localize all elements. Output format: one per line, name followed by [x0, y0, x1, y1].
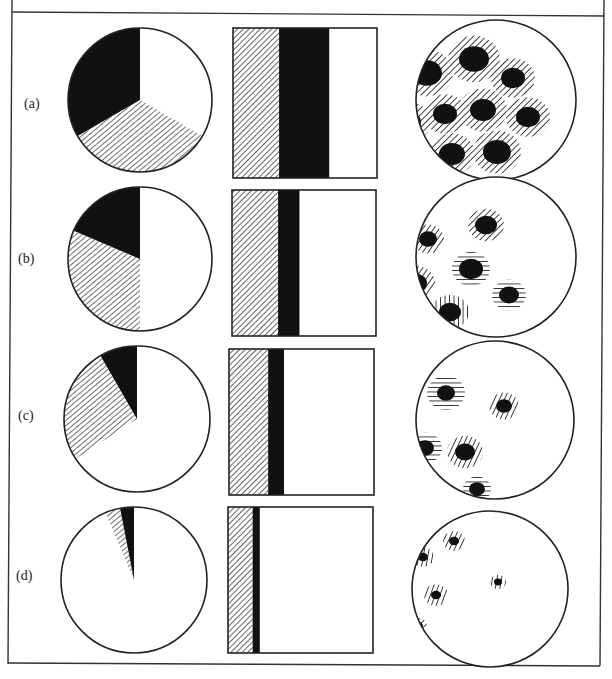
bar-segment-white	[284, 349, 374, 495]
microstructure-circle	[387, 20, 576, 180]
composition-bar	[232, 190, 376, 336]
row-b	[68, 177, 576, 337]
particle-core	[459, 46, 489, 72]
pie-chart	[68, 28, 212, 172]
bar-segment-white	[329, 28, 377, 178]
particle-core	[499, 287, 519, 304]
bar-segment-black	[253, 507, 260, 653]
particle	[468, 209, 504, 241]
bar-segment-white	[300, 190, 376, 336]
particle-core	[433, 104, 457, 124]
particle	[489, 393, 519, 420]
pie-chart	[61, 507, 207, 653]
composition-bar	[233, 28, 377, 178]
bar-segment-hatched	[233, 28, 279, 178]
particle-core	[437, 385, 455, 400]
bar-segment-black	[278, 190, 300, 336]
particle	[443, 531, 465, 551]
composition-bar	[228, 507, 373, 653]
bar-segment-black	[279, 28, 329, 178]
particle-core	[494, 579, 502, 586]
bar-segment-hatched	[228, 507, 253, 653]
microstructure-circle	[408, 341, 574, 502]
microstructure-circle	[409, 511, 568, 667]
row-label: (a)	[24, 96, 40, 112]
row-label: (d)	[16, 568, 32, 584]
particle-core	[449, 537, 459, 546]
particle-core	[470, 99, 496, 121]
particle	[427, 376, 465, 410]
particle	[397, 266, 435, 300]
row-label: (c)	[18, 408, 34, 424]
bar-segment-hatched	[232, 190, 278, 336]
bar-segment-white	[260, 507, 373, 653]
particle-core	[439, 303, 461, 322]
pie-chart	[68, 187, 212, 331]
particle-core	[431, 591, 441, 600]
particle-core	[412, 60, 442, 86]
bar-segment-hatched	[229, 349, 268, 495]
row-d	[61, 507, 568, 667]
particle	[447, 436, 483, 468]
particle-core	[516, 107, 540, 127]
particle	[452, 252, 490, 286]
particle	[490, 575, 506, 589]
particle-core	[469, 482, 485, 496]
pie-chart	[64, 346, 210, 492]
particle	[431, 295, 469, 329]
particle-core	[439, 143, 465, 165]
particle	[424, 584, 448, 606]
particle-core	[496, 399, 512, 413]
diagram-canvas	[0, 0, 612, 679]
particle	[492, 280, 526, 311]
row-c	[64, 341, 574, 502]
row-label: (b)	[18, 251, 34, 267]
particle	[506, 97, 550, 137]
pie-slice-white	[140, 187, 212, 331]
particle	[491, 58, 535, 98]
composition-bar	[229, 349, 374, 495]
particle-core	[483, 140, 511, 164]
particle-core	[419, 231, 437, 246]
particle	[459, 88, 507, 131]
particle-core	[501, 68, 525, 88]
particle-core	[455, 444, 475, 461]
bar-segment-black	[268, 349, 284, 495]
microstructure-circle	[397, 177, 576, 337]
particle	[408, 433, 442, 464]
particle-core	[459, 259, 483, 279]
row-a	[68, 20, 576, 180]
diffusion-halo	[397, 266, 435, 300]
particle	[473, 130, 521, 173]
composition-diagram: (a)(b)(c)(d)	[0, 0, 612, 679]
particle-core	[475, 216, 497, 235]
particle	[401, 50, 453, 97]
